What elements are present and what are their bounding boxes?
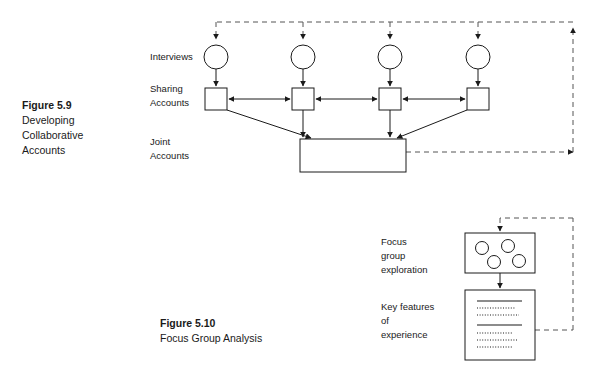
focus-participant-3 <box>488 256 501 269</box>
interview-node-2[interactable] <box>291 45 315 69</box>
figure-page: Figure 5.9 Developing Collaborative Acco… <box>0 0 599 383</box>
arrow-sharing-1-to-joint <box>227 110 311 138</box>
interview-node-1[interactable] <box>204 45 228 69</box>
figure-5-9-caption-line-3: Accounts <box>22 144 65 156</box>
row-label-focus-line-2: group <box>381 250 405 261</box>
row-label-sharing-line-2: Accounts <box>150 97 189 108</box>
focus-group-box[interactable] <box>465 233 535 273</box>
focus-participant-4 <box>513 255 526 268</box>
figure-5-9-caption-line-2: Collaborative <box>22 129 83 141</box>
focus-participant-1 <box>476 242 489 255</box>
figure-5-10-caption: Figure 5.10 Focus Group Analysis <box>160 317 262 344</box>
figure-5-10-caption-line-1: Focus Group Analysis <box>160 332 262 344</box>
figure-5-10-caption-number: Figure 5.10 <box>160 317 216 329</box>
figures-svg: Figure 5.9 Developing Collaborative Acco… <box>0 0 599 383</box>
figure-5-9-caption-line-1: Developing <box>22 114 75 126</box>
sharing-account-node-2[interactable] <box>292 88 314 110</box>
row-label-interviews: Interviews <box>150 51 193 62</box>
row-label-key-features-line-3: experience <box>381 329 427 340</box>
interview-node-3[interactable] <box>378 45 402 69</box>
figure-5-9-caption-number: Figure 5.9 <box>22 99 72 111</box>
row-label-focus-line-1: Focus <box>381 236 407 247</box>
figure-5-9-caption: Figure 5.9 Developing Collaborative Acco… <box>22 99 83 156</box>
row-label-key-features-line-1: Key features <box>381 301 435 312</box>
sharing-account-node-1[interactable] <box>205 88 227 110</box>
row-label-joint-line-1: Joint <box>150 136 170 147</box>
figure-5-9-feedback-loop <box>216 22 573 152</box>
arrow-sharing-4-to-joint <box>397 110 467 138</box>
joint-accounts-node[interactable] <box>300 139 406 172</box>
sharing-account-node-3[interactable] <box>379 88 401 110</box>
figure-5-10: Figure 5.10 Focus Group Analysis Focus g… <box>160 218 573 360</box>
sharing-account-node-4[interactable] <box>467 88 489 110</box>
row-label-sharing-line-1: Sharing <box>150 83 183 94</box>
row-label-key-features-line-2: of <box>381 315 389 326</box>
focus-participant-2 <box>502 240 515 253</box>
row-label-joint-line-2: Accounts <box>150 150 189 161</box>
interview-node-4[interactable] <box>466 45 490 69</box>
figure-5-9: Figure 5.9 Developing Collaborative Acco… <box>22 22 573 172</box>
row-label-focus-line-3: exploration <box>381 264 427 275</box>
